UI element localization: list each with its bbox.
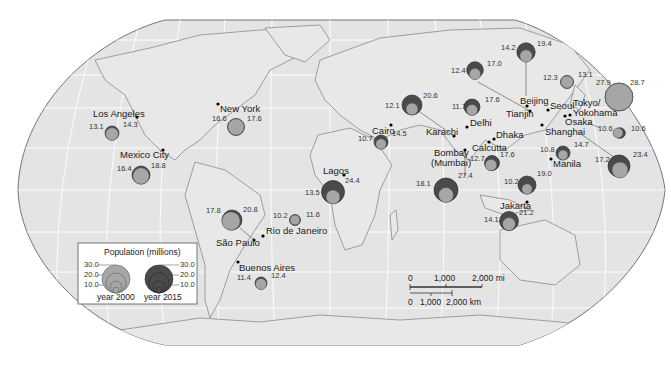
value-2000: 13.5: [305, 188, 320, 197]
value-2015: 11.6: [306, 210, 320, 219]
legend-tick-10-right: 10.0: [180, 280, 195, 289]
city-label: Mexico City: [120, 149, 169, 160]
city-label: Beijing: [520, 95, 549, 106]
legend-label-2015: year 2015: [144, 292, 182, 302]
value-2015: 23.4: [633, 150, 648, 159]
legend-tick-10: 10.0: [84, 280, 99, 289]
value-2015: 24.4: [345, 176, 360, 185]
value-2000: 12.4: [451, 66, 466, 75]
circle-2000: [106, 128, 119, 141]
city-label: New York: [220, 103, 260, 114]
value-2000: 17.2: [595, 155, 610, 164]
scale-mi-1000: 1,000: [434, 273, 456, 283]
legend-tick-20: 20.0: [84, 270, 99, 279]
value-2015: 17.6: [485, 95, 500, 104]
legend-title: Population (millions): [104, 247, 181, 257]
value-2015: 21.2: [519, 208, 534, 217]
city-label: Delhi: [470, 117, 492, 128]
value-2000: 14.1: [484, 215, 499, 224]
legend-label-2000: year 2000: [97, 292, 135, 302]
scale-mi-2000: 2,000 mi: [472, 273, 505, 283]
value-2015: 17.6: [500, 150, 515, 159]
value-2015: 20.8: [243, 205, 258, 214]
value-2000: 10.2: [504, 177, 519, 186]
legend-symbol-2015: [145, 265, 173, 293]
value-2000: 10.8: [540, 145, 555, 154]
city-label: Dhaka: [496, 129, 524, 140]
land-antarctica: [120, 315, 620, 360]
value-2015: 17.0: [487, 59, 502, 68]
city-label: Tianjin: [506, 108, 534, 119]
value-2000: 10.7: [358, 134, 373, 143]
scale-km-1000: 1,000: [420, 297, 442, 307]
city-label: Lagos: [323, 165, 349, 176]
value-2000: 17.8: [206, 206, 221, 215]
value-2015: 28.7: [630, 78, 645, 87]
value-2015: 20.6: [423, 91, 438, 100]
scale-mi-0: 0: [408, 273, 413, 283]
value-2015: 17.6: [247, 114, 262, 123]
city-label: Shanghai: [545, 126, 585, 137]
city-label: Los Angeles: [93, 108, 145, 119]
value-2000: 16.6: [212, 114, 227, 123]
legend-tick-30: 30.0: [84, 260, 99, 269]
value-2000: 11.4: [237, 273, 251, 282]
value-2015: 18.8: [151, 161, 166, 170]
value-2000: 11.7: [452, 102, 466, 111]
city-label: São Paulo: [216, 237, 260, 248]
scale-km-2000: 2,000 km: [446, 297, 481, 307]
city-label: Seoul: [550, 100, 574, 111]
legend-symbol-2000: [102, 265, 130, 293]
scale-km-0: 0: [408, 297, 413, 307]
value-2015: 12.4: [271, 271, 286, 280]
value-2000: 16.4: [117, 164, 132, 173]
value-2015: 27.4: [458, 171, 473, 180]
legend-tick-30-right: 30.0: [180, 260, 195, 269]
value-2015: 10.6: [631, 124, 646, 133]
value-2015: 14.5: [392, 129, 407, 138]
value-2015: 14.3: [123, 120, 138, 129]
legend-tick-20-right: 20.0: [180, 270, 195, 279]
value-2000: 12.3: [543, 73, 558, 82]
value-2000: 10.2: [273, 211, 288, 220]
value-2015: 19.4: [537, 39, 552, 48]
world-map: Los Angeles 13.1 14.3 New York 16.6 17.6…: [0, 0, 671, 373]
value-2000: 10.6: [598, 124, 613, 133]
value-2000: 18.1: [416, 179, 431, 188]
value-2000: 14.2: [501, 43, 516, 52]
city-label: Rio de Janeiro: [266, 225, 327, 236]
legend: Population (millions) 30.0 20.0 10.0 30.…: [78, 243, 197, 304]
value-2015: 19.0: [537, 169, 552, 178]
city-label: Buenos Aires: [239, 262, 295, 273]
value-2000: 12.1: [385, 101, 400, 110]
value-2000: 27.9: [596, 78, 611, 87]
value-2000: 13.1: [89, 122, 104, 131]
value-2000: 12.7: [470, 154, 485, 163]
city-label: Manila: [553, 158, 582, 169]
value-2015: 13.1: [578, 70, 593, 79]
value-2015: 14.7: [574, 140, 589, 149]
